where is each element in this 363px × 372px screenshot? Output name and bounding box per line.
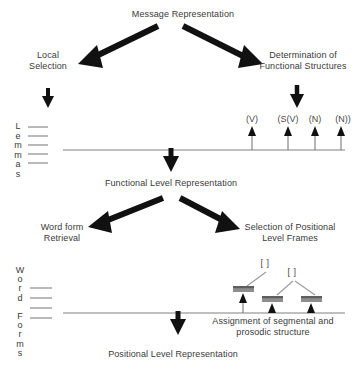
label-assignment-segmental-prosodic: Assignment of segmental and prosodic str… (189, 316, 357, 338)
label-functional-level-representation: Functional Level Representation (91, 178, 251, 189)
functional-tier-ticks (248, 126, 345, 150)
label-positional-level-representation: Positional Level Representation (88, 349, 258, 360)
label-word-form-retrieval: Word form Retrieval (18, 222, 106, 244)
arrow-to-positional-level (170, 311, 186, 335)
label-selection-positional-level-frames: Selection of Positional Level Frames (224, 222, 356, 244)
stripe-label-lemmas: L e m m a s (12, 122, 24, 180)
label-determination-functional-structures: Determination of Functional Structures (243, 50, 363, 72)
functional-tick-label-3: (N)) (326, 114, 360, 124)
diagram-canvas: Message Representation Local Selection D… (0, 0, 363, 372)
positional-bracket-1: [ ] (283, 267, 301, 277)
positional-tree-edges (247, 272, 315, 295)
page-title: Message Representation (93, 9, 273, 20)
stripe-label-word-forms: W o r d F o r m s (14, 266, 26, 358)
positional-slot-bars (233, 286, 322, 302)
functional-tick-label-0: (V) (236, 114, 268, 124)
positional-tier-ticks (239, 293, 315, 313)
lemma-stripes (28, 127, 48, 163)
arrow-to-functional-level (163, 148, 179, 172)
label-local-selection: Local Selection (10, 50, 86, 72)
word-form-stripes (30, 288, 52, 318)
arrow-determination-down (290, 85, 304, 108)
positional-bracket-0: [ ] (256, 258, 274, 268)
arrow-local-selection-down (42, 88, 54, 108)
arrow-message-to-local (78, 26, 158, 68)
